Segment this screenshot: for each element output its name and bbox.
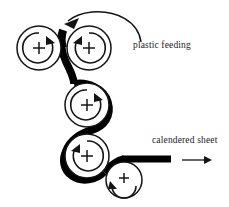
- roller-top-right: [67, 26, 111, 70]
- plastic-feeding-label: plastic feeding: [133, 40, 191, 50]
- roller-top-left: [17, 26, 61, 70]
- calendering-diagram: plastic feeding calendered sheet: [0, 0, 229, 207]
- exit-arrow-head: [204, 156, 212, 164]
- exit-arrow: [182, 156, 212, 164]
- roller-bottom-right: [106, 162, 142, 198]
- calendered-sheet-label: calendered sheet: [152, 135, 218, 145]
- roller-lower: [65, 134, 109, 178]
- diagram-canvas: plastic feeding calendered sheet: [0, 0, 229, 207]
- feed-arrow-head: [64, 18, 79, 29]
- roller-middle: [65, 83, 109, 127]
